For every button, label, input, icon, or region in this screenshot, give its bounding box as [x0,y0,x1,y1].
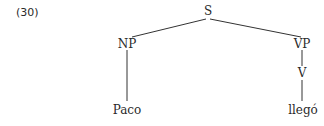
node-v: V [298,67,307,79]
leaf-paco: Paco [113,104,142,116]
node-np: NP [118,38,137,50]
node-vp: VP [294,38,311,50]
edge-s-vp [210,19,301,37]
tree-edges [0,0,324,126]
leaf-llego: llegó [288,104,318,116]
node-s: S [204,5,212,17]
edge-s-np [132,19,206,37]
